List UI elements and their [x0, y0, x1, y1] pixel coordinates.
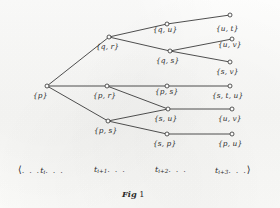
tree-node-n11 [228, 60, 232, 64]
time-axis-tick-3: ti+3. . .⟩ [215, 165, 251, 176]
caption-number: 1 [137, 189, 145, 199]
node-label-n12: {s, t, u} [212, 92, 243, 99]
axis-ellipsis: . . . [22, 165, 41, 175]
figure-container: {p}{q, r}{p, r}{p, s}{q, u}{q, s}{p, s}{… [0, 0, 280, 208]
node-label-n7: {s, u} [154, 115, 177, 122]
tree-node-n0 [45, 84, 49, 88]
node-label-n10: {u, v} [218, 41, 242, 48]
sequence-close-bracket: ⟩ [247, 164, 251, 175]
tree-node-n12 [228, 84, 232, 88]
node-label-n6: {p, s} [155, 88, 178, 95]
time-axis-tick-2: ti+2. . . [155, 165, 187, 175]
tree-node-n14 [230, 132, 234, 136]
node-label-n14: {p, u} [218, 140, 242, 147]
node-label-n13: {u, v} [218, 115, 242, 122]
tree-node-n2 [105, 84, 109, 88]
axis-ellipsis: . . . [168, 164, 187, 174]
node-label-n9: {u, t} [216, 25, 238, 32]
time-axis-tick-0: ⟨. . .ti. . . [18, 165, 64, 176]
node-label-n11: {s, v} [216, 68, 239, 75]
axis-tick-subscript: i+1 [97, 168, 107, 174]
tree-node-n7 [166, 107, 170, 111]
tree-node-n8 [165, 132, 169, 136]
axis-ellipsis: . . . [107, 164, 126, 174]
node-label-n4: {q, u} [153, 26, 177, 33]
node-label-n2: {p, r} [93, 92, 116, 99]
axis-tick-subscript: i+3 [218, 169, 228, 175]
axis-ellipsis: . . . [228, 165, 247, 175]
tree-node-n1 [107, 35, 111, 39]
axis-ellipsis: . . . [45, 165, 64, 175]
tree-edge [167, 15, 230, 24]
axis-tick-subscript: i+2 [158, 168, 168, 174]
node-label-n0: {p} [33, 92, 47, 99]
tree-node-n5 [168, 49, 172, 53]
caption-prefix: Fig [122, 189, 137, 199]
figure-caption: Fig 1 [122, 190, 144, 198]
tree-node-n3 [106, 119, 110, 123]
node-label-n3: {p, s} [94, 127, 117, 134]
node-label-n5: {q, s} [156, 57, 179, 64]
tree-node-n9 [228, 13, 232, 17]
node-label-n1: {q, r} [96, 43, 119, 50]
node-label-n8: {s, p} [153, 140, 176, 147]
time-axis-tick-1: ti+1. . . [94, 165, 126, 175]
tree-node-n13 [230, 107, 234, 111]
